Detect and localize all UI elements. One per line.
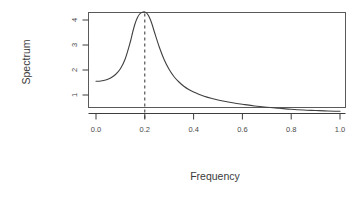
x-axis-title: Frequency — [190, 170, 240, 182]
y-axis-tick-label: 2 — [70, 68, 79, 72]
x-axis-tick-label: 1.0 — [335, 125, 345, 134]
y-axis-tick-label: 3 — [70, 43, 79, 47]
x-axis-tick-label: 0.4 — [188, 125, 198, 134]
spectral-density-plot: 1234 0.00.20.40.60.81.0 Spectrum Frequen… — [0, 0, 364, 198]
y-axis-tick-label: 1 — [70, 93, 79, 97]
x-axis-tick-label: 0.2 — [140, 125, 150, 134]
y-axis-tick-label: 4 — [70, 18, 79, 22]
plot-background — [0, 0, 364, 198]
x-axis-tick-label: 0.8 — [286, 125, 296, 134]
chart-canvas: 1234 0.00.20.40.60.81.0 Spectrum Frequen… — [0, 0, 364, 198]
y-axis-title: Spectrum — [20, 39, 32, 84]
x-axis-tick-label: 0.6 — [237, 125, 247, 134]
x-axis-tick-label: 0.0 — [91, 125, 101, 134]
